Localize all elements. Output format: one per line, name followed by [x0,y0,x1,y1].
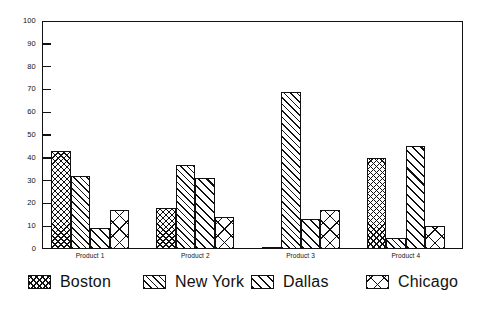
bar-chicago-product-3 [320,210,340,249]
y-axis-tick-label: 90 [6,39,36,48]
bar-chicago-product-2 [215,217,235,249]
bar-group [262,21,340,249]
bar-dallas-product-2 [195,178,215,249]
legend-swatch-icon [143,275,166,289]
x-axis-label-product-1: Product 1 [51,252,129,259]
bar-chart: 0102030405060708090100 Product 1Product … [0,0,491,311]
legend-swatch-icon [28,275,51,289]
bar-boston-product-4 [367,158,387,249]
bar-dallas-product-1 [90,228,110,249]
y-axis-tick-label: 50 [6,130,36,139]
y-axis-tick-label: 70 [6,84,36,93]
bar-new-york-product-2 [176,165,196,249]
bar-dallas-product-4 [406,146,426,249]
bar-chicago-product-1 [110,210,130,249]
legend-item-new-york[interactable]: New York [143,271,244,293]
legend-swatch-icon [251,275,274,289]
bar-group [51,21,129,249]
bar-boston-product-1 [51,151,71,249]
y-axis-tick-label: 60 [6,107,36,116]
bar-new-york-product-1 [71,176,91,249]
bars-layer [42,21,463,249]
y-axis-tick-label: 100 [6,16,36,25]
y-axis-tick-label: 80 [6,62,36,71]
legend-item-boston[interactable]: Boston [28,271,111,293]
legend-label: Chicago [398,273,458,291]
bar-dallas-product-3 [301,219,321,249]
chart-legend: BostonNew YorkDallasChicago [0,271,491,297]
y-axis-tick-label: 20 [6,198,36,207]
legend-label: New York [175,273,244,291]
bar-group [367,21,445,249]
bar-chicago-product-4 [425,226,445,249]
legend-swatch-icon [366,275,389,289]
bar-new-york-product-4 [386,238,406,249]
x-axis-label-product-4: Product 4 [367,252,445,259]
y-axis-tick-label: 40 [6,153,36,162]
legend-item-chicago[interactable]: Chicago [366,271,458,293]
legend-label: Dallas [283,273,329,291]
bar-group [156,21,234,249]
bar-new-york-product-3 [281,92,301,249]
bar-boston-product-3 [262,247,282,249]
x-axis-label-product-2: Product 2 [156,252,234,259]
y-axis-tick-label: 10 [6,221,36,230]
y-axis-tick-label: 30 [6,176,36,185]
y-axis-tick-label: 0 [6,244,36,253]
x-axis-label-product-3: Product 3 [262,252,340,259]
bar-boston-product-2 [156,208,176,249]
legend-item-dallas[interactable]: Dallas [251,271,329,293]
legend-label: Boston [60,273,111,291]
